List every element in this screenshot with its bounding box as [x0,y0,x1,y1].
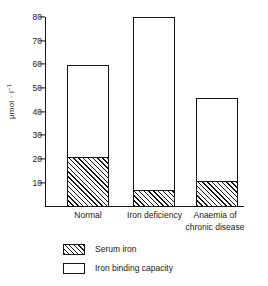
plot-area [45,17,244,207]
x-label-anaemia-chronic-disease: Anaemia of chronic disease [172,210,258,233]
y-axis-title: µmol · l−1 [6,66,17,136]
legend-label-serum-iron: Serum iron [95,244,137,254]
legend-item-iron-binding-capacity: Iron binding capacity [63,260,263,276]
legend-label-iron-binding-capacity: Iron binding capacity [95,263,173,273]
bar-chart-figure: µmol · l−1 80 70 60 50 40 30 20 10 [0,0,268,286]
y-axis-title-text: µmol · l [7,91,16,119]
legend-item-serum-iron: Serum iron [63,241,263,257]
y-axis-tick-labels: 80 70 60 50 40 30 20 10 [22,0,42,286]
bar-serum-iron-anaemia-chronic-disease [196,181,238,207]
legend-swatch-white-icon [63,263,85,274]
bar-serum-iron-normal [67,157,109,207]
chart-legend: Serum iron Iron binding capacity [63,241,263,279]
bar-total-iron-deficiency [133,17,175,207]
legend-swatch-hatched-icon [63,244,85,255]
y-axis-title-exponent: −1 [6,84,12,91]
bar-serum-iron-iron-deficiency [133,190,175,207]
x-axis-category-labels: Normal Iron deficiency Anaemia of chroni… [45,210,244,242]
